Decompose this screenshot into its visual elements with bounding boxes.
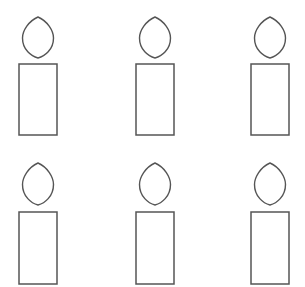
candle-body-rectangle (136, 212, 174, 284)
candle-figure: Candle 2 (136, 17, 174, 135)
flame-icon (255, 163, 286, 205)
candle-body-rectangle (19, 64, 57, 135)
candle-body-rectangle (251, 212, 289, 284)
flame-icon (255, 17, 286, 58)
candle-illustration-canvas: Candle 1Candle 2Candle 3Candle 4Candle 5… (0, 0, 305, 287)
candle-figure: Candle 6 (251, 163, 289, 284)
flame-icon (23, 17, 54, 58)
candle-figure: Candle 3 (251, 17, 289, 135)
flame-icon (140, 17, 171, 58)
candle-figure: Candle 4 (19, 163, 57, 284)
candle-figure: Candle 5 (136, 163, 174, 284)
candle-figure: Candle 1 (19, 17, 57, 135)
candle-body-rectangle (19, 212, 57, 284)
flame-icon (140, 163, 171, 205)
flame-icon (23, 163, 54, 205)
candle-grid: Candle 1Candle 2Candle 3Candle 4Candle 5… (0, 0, 305, 287)
candle-body-rectangle (136, 64, 174, 135)
candle-body-rectangle (251, 64, 289, 135)
